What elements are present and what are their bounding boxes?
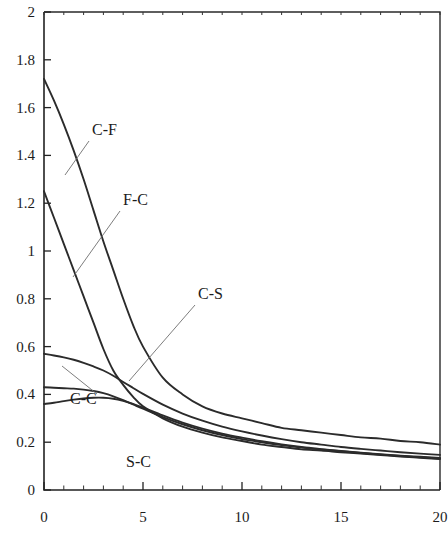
y-axis-tick-label: 1 xyxy=(28,243,36,259)
y-axis-tick-label: 1.4 xyxy=(16,147,35,163)
series-label-c-s: C-S xyxy=(198,285,223,302)
x-axis-tick-label: 10 xyxy=(235,509,250,525)
chart-container: 00.20.40.60.811.21.41.61.8205101520 C-FF… xyxy=(0,0,448,542)
y-axis-tick-label: 0.2 xyxy=(16,434,35,450)
y-axis-tick-label: 0.4 xyxy=(16,386,35,402)
y-axis-tick-label: 0.6 xyxy=(16,339,35,355)
series-label-c-f: C-F xyxy=(92,121,117,138)
y-axis-tick-label: 1.2 xyxy=(16,195,35,211)
series-annotations: C-FF-CC-SC-CS-C xyxy=(70,121,223,470)
leader-line-c-f xyxy=(65,141,89,175)
series-curve-s-c xyxy=(44,398,440,458)
y-axis-tick-label: 0 xyxy=(28,482,36,498)
series-label-s-c: S-C xyxy=(126,453,151,470)
x-axis-tick-label: 0 xyxy=(40,509,48,525)
axis-tick-labels: 00.20.40.60.811.21.41.61.8205101520 xyxy=(16,4,447,525)
series-label-f-c: F-C xyxy=(123,191,148,208)
y-axis-tick-label: 1.6 xyxy=(16,100,35,116)
x-axis-tick-label: 20 xyxy=(433,509,448,525)
annotation-leader-lines xyxy=(62,141,195,394)
y-axis-tick-label: 2 xyxy=(28,4,36,20)
leader-line-c-s xyxy=(129,305,195,381)
x-axis-tick-label: 5 xyxy=(139,509,147,525)
x-axis-tick-label: 15 xyxy=(334,509,349,525)
series-label-c-c: C-C xyxy=(70,390,97,407)
y-axis-tick-label: 1.8 xyxy=(16,52,35,68)
y-axis-tick-label: 0.8 xyxy=(16,291,35,307)
line-chart: 00.20.40.60.811.21.41.61.8205101520 C-FF… xyxy=(0,0,448,542)
